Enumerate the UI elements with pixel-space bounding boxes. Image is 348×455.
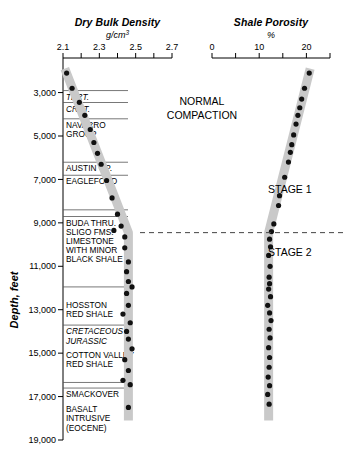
- depth-tick-label: 15,000: [28, 348, 56, 358]
- shale-porosity-data-point: [267, 355, 272, 360]
- depth-tick-label: 5,000: [33, 131, 56, 141]
- dry-bulk-density-data-point: [122, 357, 127, 362]
- dry-bulk-density-data-point: [77, 100, 82, 105]
- dry-bulk-density-data-point: [109, 195, 114, 200]
- dry-bulk-density-data-point: [120, 311, 125, 316]
- depth-tick-label: 13,000: [28, 305, 56, 315]
- dry-bulk-density-data-point: [111, 228, 116, 233]
- dry-bulk-density-data-point: [88, 127, 93, 132]
- shale-porosity-data-point: [267, 264, 272, 269]
- well-log-compaction-chart: Dry Bulk Densityg/cm3Shale Porosity%2.12…: [0, 0, 348, 455]
- shale-porosity-data-point: [267, 281, 272, 286]
- shale-porosity-data-point: [266, 286, 271, 291]
- shale-porosity-data-point: [267, 237, 272, 242]
- normal-compaction-label: COMPACTION: [167, 109, 237, 121]
- dry-bulk-density-data-point: [126, 336, 131, 341]
- normal-compaction-label: NORMAL: [180, 95, 225, 107]
- stage-2-label: STAGE 2: [268, 246, 312, 258]
- dry-bulk-density-data-point: [99, 162, 104, 167]
- dry-bulk-density-data-point: [128, 320, 133, 325]
- dry-bulk-density-data-point: [129, 346, 134, 351]
- depth-tick-label: 7,000: [33, 175, 56, 185]
- shale-porosity-data-point: [299, 96, 304, 101]
- strat-label-cotton-valley: RED SHALE: [66, 359, 113, 369]
- strat-label-jurassic: JURASSIC: [65, 336, 108, 346]
- depth-tick-label: 19,000: [28, 435, 56, 445]
- shale-porosity-data-point: [265, 392, 270, 397]
- dry-bulk-density-data-point: [122, 234, 127, 239]
- dry-bulk-density-data-point: [82, 113, 87, 118]
- stage-1-label: STAGE 1: [268, 183, 312, 195]
- strat-label-hosston-red-shale: RED SHALE: [66, 309, 113, 319]
- figure-root: Dry Bulk Densityg/cm3Shale Porosity%2.12…: [0, 0, 348, 455]
- dry-bulk-density-data-point: [129, 284, 134, 289]
- dry-bulk-density-data-point: [122, 245, 127, 250]
- shale-porosity-data-point: [297, 105, 302, 110]
- shale-porosity-data-point: [267, 335, 272, 340]
- shale-porosity-data-point: [291, 132, 296, 137]
- dry-bulk-density-data-point: [64, 70, 69, 75]
- depth-axis-label: Depth, feet: [8, 270, 20, 328]
- shale-porosity-data-point: [276, 203, 281, 208]
- shale-porosity-data-point: [271, 221, 276, 226]
- density-tick-label: 2.1: [57, 42, 70, 52]
- dry-bulk-density-units: g/cm3: [106, 29, 130, 41]
- porosity-tick-label: 10: [254, 42, 264, 52]
- shale-porosity-data-point: [266, 345, 271, 350]
- strat-label-smackover: SMACKOVER: [66, 389, 119, 399]
- shale-porosity-data-point: [293, 121, 298, 126]
- shale-porosity-data-point: [307, 70, 312, 75]
- depth-tick-label: 3,000: [33, 88, 56, 98]
- shale-porosity-data-point: [269, 229, 274, 234]
- dry-bulk-density-data-point: [120, 378, 125, 383]
- dry-bulk-density-data-point: [126, 405, 131, 410]
- shale-porosity-data-point: [266, 374, 271, 379]
- shale-porosity-data-point: [268, 318, 273, 323]
- density-tick-label: 2.7: [166, 42, 179, 52]
- dry-bulk-density-data-point: [124, 329, 129, 334]
- porosity-tick-label: 0: [209, 42, 214, 52]
- density-tick-label: 2.5: [129, 42, 142, 52]
- dry-bulk-density-data-point: [126, 368, 131, 373]
- dry-bulk-density-data-point: [95, 151, 100, 156]
- porosity-tick-label: 20: [301, 42, 311, 52]
- dry-bulk-density-data-point: [124, 291, 129, 296]
- shale-porosity-data-point: [286, 159, 291, 164]
- depth-tick-label: 11,000: [29, 261, 56, 271]
- strat-label-buda-sligo: BLACK SHALE: [66, 254, 123, 264]
- dry-bulk-density-data-point: [128, 382, 133, 387]
- shale-porosity-data-point: [267, 327, 272, 332]
- dry-bulk-density-data-point: [69, 86, 74, 91]
- dry-bulk-density-data-point: [91, 140, 96, 145]
- density-tick-label: 2.3: [93, 42, 106, 52]
- shale-porosity-data-point: [265, 303, 270, 308]
- dry-bulk-density-data-point: [115, 212, 120, 217]
- shale-porosity-data-point: [267, 310, 272, 315]
- shale-porosity-data-point: [267, 402, 272, 407]
- dry-bulk-density-data-point: [126, 303, 131, 308]
- strat-label-basalt-intrusive: (EOCENE): [66, 423, 107, 433]
- depth-tick-label: 9,000: [33, 218, 56, 228]
- shale-porosity-title: Shale Porosity: [234, 16, 309, 28]
- shale-porosity-data-point: [302, 86, 307, 91]
- shale-porosity-data-point: [267, 275, 272, 280]
- strat-label-cretaceous: CRETACEOUS: [66, 326, 123, 336]
- shale-porosity-data-point: [295, 113, 300, 118]
- dry-bulk-density-data-point: [119, 224, 124, 229]
- depth-tick-label: 17,000: [28, 392, 56, 402]
- dry-bulk-density-data-point: [126, 279, 131, 284]
- shale-porosity-data-point: [289, 142, 294, 147]
- shale-porosity-units: %: [267, 30, 275, 40]
- dry-bulk-density-title: Dry Bulk Density: [75, 16, 162, 28]
- dry-bulk-density-data-point: [104, 178, 109, 183]
- shale-porosity-data-point: [288, 150, 293, 155]
- shale-porosity-data-point: [282, 175, 287, 180]
- shale-porosity-data-point: [268, 294, 273, 299]
- shale-porosity-data-point: [267, 383, 272, 388]
- shale-porosity-data-point: [267, 365, 272, 370]
- dry-bulk-density-data-point: [126, 259, 131, 264]
- shale-porosity-trend-band: [269, 69, 311, 421]
- dry-bulk-density-data-point: [124, 269, 129, 274]
